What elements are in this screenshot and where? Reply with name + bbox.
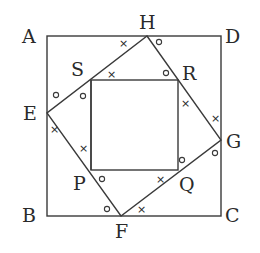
angle-mark-circle xyxy=(163,70,168,75)
label-p: P xyxy=(73,172,86,194)
label-q: Q xyxy=(179,173,195,195)
angle-mark-circle xyxy=(104,206,109,211)
angle-mark-circle xyxy=(156,39,161,44)
angle-mark-cross: × xyxy=(107,68,116,81)
label-g: G xyxy=(226,130,241,152)
label-f: F xyxy=(115,220,128,242)
label-c: C xyxy=(225,204,240,226)
angle-mark-cross: × xyxy=(211,112,220,125)
angle-mark-circle xyxy=(53,92,58,97)
label-s: S xyxy=(71,58,84,80)
inner-square-srqp xyxy=(91,80,178,170)
geometry-diagram: A D B C H E F G S R P Q × × × × × × × × xyxy=(0,0,260,253)
label-e: E xyxy=(23,102,37,124)
angle-mark-circle xyxy=(80,93,85,98)
angle-mark-circle xyxy=(179,157,184,162)
angle-mark-circle xyxy=(212,150,217,155)
angle-mark-cross: × xyxy=(156,173,165,186)
angle-mark-cross: × xyxy=(119,37,128,50)
label-d: D xyxy=(225,25,240,47)
angle-mark-cross: × xyxy=(137,203,146,216)
label-r: R xyxy=(182,62,197,84)
label-b: B xyxy=(22,204,36,226)
angle-mark-cross: × xyxy=(181,97,190,110)
angle-mark-cross: × xyxy=(50,123,59,136)
angle-mark-circle xyxy=(99,176,104,181)
label-h: H xyxy=(139,11,156,33)
label-a: A xyxy=(21,25,36,47)
angle-mark-cross: × xyxy=(79,142,88,155)
